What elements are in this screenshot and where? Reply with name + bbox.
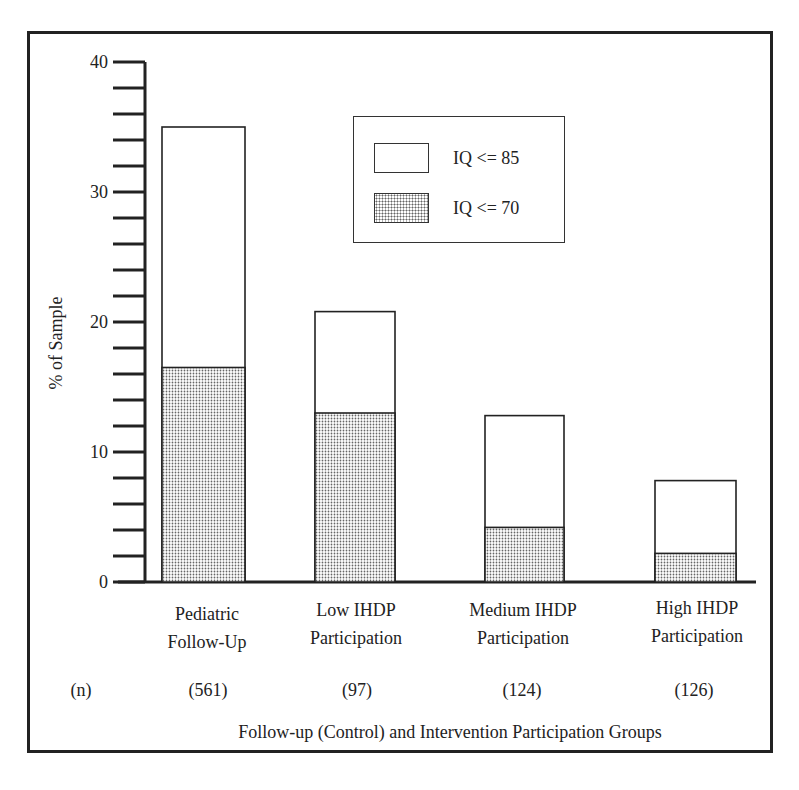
category-label-pediatric: Pediatric Follow-Up: [167, 600, 246, 656]
legend-label: IQ <= 85: [453, 148, 519, 169]
y-tick-30: 30: [90, 182, 108, 203]
category-line2: Follow-Up: [167, 628, 246, 656]
legend: IQ <= 85 IQ <= 70: [353, 116, 565, 243]
n-value-medium: (124): [503, 680, 542, 701]
n-value-low: (97): [342, 680, 372, 701]
category-line1: Low IHDP: [310, 596, 402, 624]
category-label-low: Low IHDP Participation: [310, 596, 402, 652]
category-line2: Participation: [469, 624, 577, 652]
n-value-pediatric: (561): [189, 680, 228, 701]
y-tick-40: 40: [90, 52, 108, 73]
category-label-high: High IHDP Participation: [651, 594, 743, 650]
x-axis-label: Follow-up (Control) and Intervention Par…: [238, 722, 661, 743]
category-line1: Pediatric: [167, 600, 246, 628]
bar-iq70: [485, 527, 564, 582]
bar-group: [655, 481, 736, 582]
bar-group: [162, 127, 245, 582]
legend-swatch-stippled: [374, 193, 429, 223]
bar-group: [315, 312, 395, 582]
category-line1: High IHDP: [651, 594, 743, 622]
legend-swatch-white: [374, 143, 429, 173]
legend-item-iq85: IQ <= 85: [374, 143, 519, 173]
n-label: (n): [71, 680, 92, 701]
category-line2: Participation: [651, 622, 743, 650]
n-value-high: (126): [675, 680, 714, 701]
bar-iq70: [315, 413, 395, 582]
category-line2: Participation: [310, 624, 402, 652]
bar-iq70: [655, 553, 736, 582]
bar-group: [485, 416, 564, 582]
y-axis-label: % of Sample: [46, 297, 67, 390]
legend-item-iq70: IQ <= 70: [374, 193, 519, 223]
bar-iq70: [162, 368, 245, 583]
category-line1: Medium IHDP: [469, 596, 577, 624]
y-tick-20: 20: [90, 312, 108, 333]
y-tick-0: 0: [99, 572, 108, 593]
legend-label: IQ <= 70: [453, 198, 519, 219]
category-label-medium: Medium IHDP Participation: [469, 596, 577, 652]
y-tick-10: 10: [90, 442, 108, 463]
